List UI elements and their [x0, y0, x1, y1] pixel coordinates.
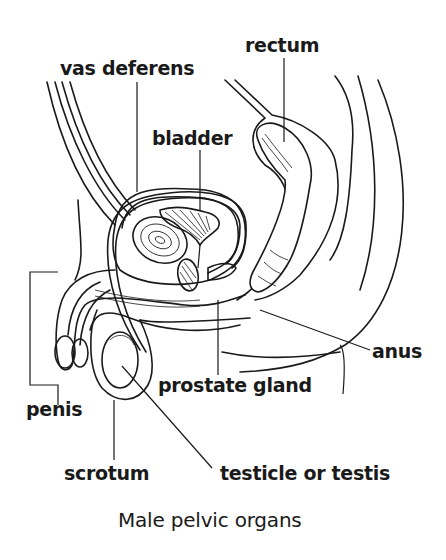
scrotum [91, 310, 152, 399]
label-anus: anus [372, 342, 422, 361]
label-scrotum: scrotum [64, 464, 149, 483]
rectum [225, 80, 338, 300]
label-rectum: rectum [245, 36, 319, 55]
diagram-caption: Male pelvic organs [118, 508, 302, 532]
label-testicle: testicle or testis [220, 464, 390, 483]
abdominal-wall [47, 82, 135, 280]
penis [55, 270, 250, 370]
bladder [113, 188, 245, 284]
label-vas-deferens: vas deferens [60, 59, 194, 78]
label-prostate-gland: prostate gland [158, 376, 312, 395]
label-penis: penis [26, 400, 82, 419]
back-curves [222, 76, 403, 372]
label-bladder: bladder [152, 129, 232, 148]
